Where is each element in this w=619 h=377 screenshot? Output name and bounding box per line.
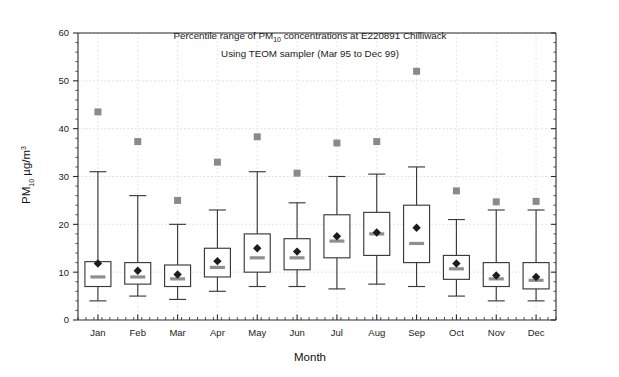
y-tick-label: 40 [58, 123, 69, 134]
max-marker [294, 170, 301, 177]
title-text: Percentile range of PM [173, 30, 273, 41]
chart-title-line2: Using TEOM sampler (Mar 95 to Dec 99) [221, 48, 399, 59]
ylabel-superscript: 3 [20, 146, 27, 150]
x-axis-title: Month [294, 351, 326, 363]
max-marker [493, 198, 500, 205]
x-tick-label-jul: Jul [331, 327, 343, 338]
chart-canvas: 0102030405060 JanFebMarAprMayJunJulAugSe… [0, 0, 619, 377]
x-tick-label-sep: Sep [408, 327, 425, 338]
max-marker [214, 159, 221, 166]
x-tick-label-feb: Feb [130, 327, 146, 338]
y-tick-label: 60 [58, 27, 69, 38]
max-marker [94, 108, 101, 115]
boxplot-figure: 0102030405060 JanFebMarAprMayJunJulAugSe… [0, 0, 619, 377]
box-iqr [404, 205, 430, 262]
y-tick-label: 30 [58, 171, 69, 182]
x-tick-label-aug: Aug [368, 327, 385, 338]
title-text-2: concentrations at E220891 Chilliwack [281, 30, 447, 41]
x-tick-label-nov: Nov [488, 327, 505, 338]
ylabel-units: µg/m [20, 150, 32, 179]
y-tick-label: 20 [58, 219, 69, 230]
max-marker [174, 197, 181, 204]
ylabel-subscript: 10 [28, 179, 35, 187]
x-tick-label-mar: Mar [169, 327, 185, 338]
max-marker [413, 68, 420, 75]
y-tick-label: 50 [58, 75, 69, 86]
max-marker [453, 187, 460, 194]
x-tick-label-oct: Oct [449, 327, 464, 338]
y-tick-label: 0 [64, 314, 69, 325]
max-marker [254, 133, 261, 140]
x-tick-label-jun: Jun [289, 327, 304, 338]
max-marker [373, 138, 380, 145]
max-marker [333, 140, 340, 147]
ylabel-text: PM [20, 187, 32, 204]
x-tick-label-apr: Apr [210, 327, 225, 338]
max-marker [134, 138, 141, 145]
box-iqr [244, 234, 270, 272]
x-tick-label-jan: Jan [90, 327, 105, 338]
x-tick-label-dec: Dec [528, 327, 545, 338]
x-tick-label-may: May [248, 327, 266, 338]
max-marker [533, 198, 540, 205]
title-subscript: 10 [273, 36, 281, 43]
y-tick-label: 10 [58, 267, 69, 278]
